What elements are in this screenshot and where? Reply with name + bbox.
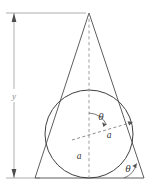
- base-angle-arrowhead: [132, 163, 136, 168]
- radius-to-tangent-line: [72, 122, 133, 140]
- height-label: y: [11, 91, 16, 101]
- base-angle-label: θ: [125, 162, 131, 174]
- figure-canvas: y θ a a θ: [0, 0, 149, 190]
- radius-vertical-label: a: [77, 151, 82, 161]
- geometry-figure: y θ a a θ: [0, 0, 149, 190]
- dimension-arrowhead-bottom: [12, 169, 17, 178]
- dimension-arrowhead-top: [12, 13, 17, 22]
- apex-half-angle-label: θ: [98, 110, 104, 122]
- triangle-right-side: [89, 13, 144, 178]
- radius-slant-label: a: [107, 130, 112, 140]
